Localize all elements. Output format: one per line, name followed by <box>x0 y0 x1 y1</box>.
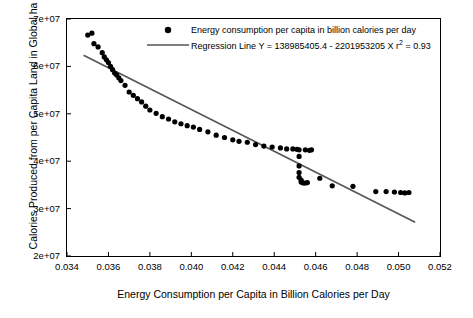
legend-entry-regression: Regression Line Y = 138985405.4 - 220195… <box>145 37 431 52</box>
legend-label-regression: Regression Line Y = 138985405.4 - 220195… <box>191 39 431 51</box>
y-tick-label: 2e+07 <box>16 250 60 261</box>
filled-circle-icon <box>145 25 191 35</box>
y-tick-label: 4e+07 <box>16 155 60 166</box>
y-tick-label: 7e+07 <box>16 13 60 24</box>
legend-entry-scatter: Energy consumption per capita in billion… <box>145 22 431 37</box>
y-tick-label: 5e+07 <box>16 108 60 119</box>
x-tick-label: 0.052 <box>420 261 460 272</box>
line-swatch-icon <box>145 40 191 50</box>
legend-regression-pre: Regression Line Y = 138985405.4 - 220195… <box>191 41 399 51</box>
x-tick-label: 0.040 <box>171 261 211 272</box>
x-tick-label: 0.042 <box>213 261 253 272</box>
x-tick-label: 0.034 <box>47 261 87 272</box>
x-tick-label: 0.050 <box>379 261 419 272</box>
scatter-plot-svg <box>67 19 440 256</box>
x-tick-label: 0.038 <box>130 261 170 272</box>
plot-area <box>66 18 441 257</box>
x-tick-label: 0.036 <box>88 261 128 272</box>
x-tick-label: 0.046 <box>296 261 336 272</box>
y-tick-label: 3e+07 <box>16 203 60 214</box>
legend-label-scatter: Energy consumption per capita in billion… <box>191 25 416 35</box>
chart-legend: Energy consumption per capita in billion… <box>145 22 431 52</box>
x-axis-label: Energy Consumption per Capita in Billion… <box>66 288 441 300</box>
x-tick-label: 0.044 <box>254 261 294 272</box>
legend-regression-post: = 0.93 <box>403 41 431 51</box>
chart-root: Calories Produced from per Capita Land i… <box>0 0 473 318</box>
x-tick-label: 0.048 <box>337 261 377 272</box>
y-tick-label: 6e+07 <box>16 60 60 71</box>
